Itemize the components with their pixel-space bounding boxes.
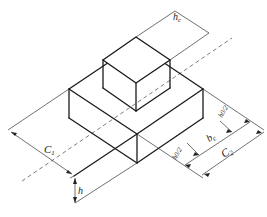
label-c2: C2 [219, 143, 236, 161]
label-h0-half-left: h0/2 [171, 146, 184, 161]
diagram-canvas: hc C1 h bc C2 h0/2 h0/2 [0, 0, 267, 217]
label-h: h [78, 185, 83, 196]
label-c1: C1 [44, 143, 55, 157]
label-hc: hc [173, 11, 182, 24]
dimension-h [73, 163, 137, 203]
footing-diagram: hc C1 h bc C2 h0/2 h0/2 [0, 0, 267, 217]
dimension-c1 [8, 89, 74, 178]
label-bc: bc [204, 130, 219, 146]
dimension-right-group [137, 89, 264, 178]
column-block [103, 37, 170, 111]
